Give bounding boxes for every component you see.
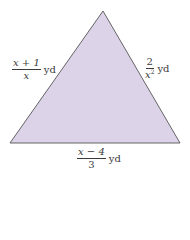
bottom-side-unit: yd [109,154,121,164]
bottom-side-fraction: x − 4 3 [77,147,106,170]
bottom-side-denominator: 3 [88,159,94,170]
right-side-denominator-exponent: 2 [151,68,155,75]
right-side-unit: yd [157,64,169,74]
left-side-label: x + 1 x yd [12,58,56,81]
right-side-fraction: 2 x2 [145,57,154,80]
left-side-unit: yd [44,65,56,75]
left-side-denominator: x [24,70,30,81]
right-side-denominator: x2 [145,69,154,80]
left-side-numerator: x + 1 [12,58,41,70]
right-side-label: 2 x2 yd [145,57,170,80]
left-side-fraction: x + 1 x [12,58,41,81]
bottom-side-numerator: x − 4 [77,147,106,159]
bottom-side-label: x − 4 3 yd [77,147,121,170]
